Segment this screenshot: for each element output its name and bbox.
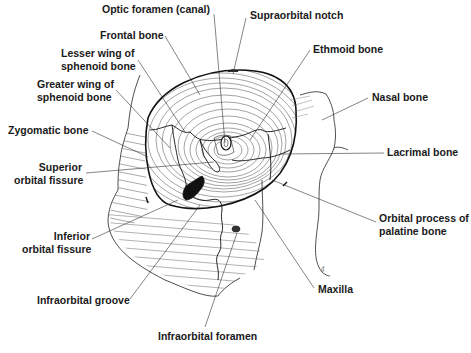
label-maxilla: Maxilla [318, 283, 353, 296]
label-inferior-orbital-fissure: Inferior orbital fissure [22, 230, 90, 256]
orbit-diagram: 4 Optic foramen (canal) Supraorbital not… [0, 0, 471, 353]
label-supraorbital-notch: Supraorbital notch [250, 9, 343, 22]
label-lacrimal-bone: Lacrimal bone [387, 146, 458, 159]
label-zygomatic-bone: Zygomatic bone [8, 124, 89, 137]
page-number: 4 [320, 264, 325, 274]
label-lesser-wing-sphenoid: Lesser wing of sphenoid bone [61, 47, 136, 73]
infraorbital-foramen-shape [232, 226, 240, 232]
label-infraorbital-foramen: Infraorbital foramen [158, 330, 257, 343]
label-nasal-bone: Nasal bone [372, 91, 428, 104]
label-orbital-process-palatine: Orbital process of palatine bone [379, 212, 469, 238]
optic-foramen-shape [221, 136, 231, 150]
label-infraorbital-groove: Infraorbital groove [37, 294, 130, 307]
label-frontal-bone: Frontal bone [100, 29, 164, 42]
label-greater-wing-sphenoid: Greater wing of sphenoid bone [37, 78, 114, 104]
label-ethmoid-bone: Ethmoid bone [313, 43, 383, 56]
label-optic-foramen: Optic foramen (canal) [102, 3, 210, 16]
label-superior-orbital-fissure: Superior orbital fissure [14, 161, 82, 187]
face-outline [108, 75, 348, 296]
inferior-orbital-fissure-shape [183, 176, 204, 200]
